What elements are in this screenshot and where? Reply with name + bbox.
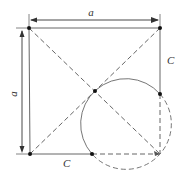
circle-dashed-arc <box>92 94 171 169</box>
bottom-left-point <box>28 152 32 156</box>
top-dimension: a <box>29 6 160 26</box>
bottom-c-label: C <box>63 157 71 169</box>
top-dimension-label: a <box>88 6 94 18</box>
top-left-point <box>27 26 31 30</box>
bottom-c-point <box>90 152 94 156</box>
right-c-label: C <box>167 54 175 66</box>
center-point <box>93 89 97 93</box>
square-circle-diagram: a a C <box>0 0 182 181</box>
circle-solid-arc <box>81 79 160 154</box>
left-dimension: a <box>7 28 28 154</box>
top-right-point <box>158 26 162 30</box>
left-dimension-label: a <box>7 91 19 97</box>
diagram-svg: a a C <box>0 0 182 181</box>
right-c-point <box>158 92 162 96</box>
